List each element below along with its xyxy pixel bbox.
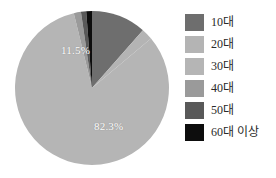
legend-item-label: 40대 [211, 82, 234, 94]
legend-item-label: 30대 [211, 60, 234, 72]
legend-item[interactable]: 20대 [185, 35, 273, 53]
slice-label-minor: 11.5% [61, 44, 90, 56]
legend-swatch-icon [185, 36, 204, 53]
legend-item[interactable]: 40대 [185, 79, 273, 97]
legend-item[interactable]: 30대 [185, 57, 273, 75]
legend-swatch-icon [185, 102, 204, 119]
legend-item[interactable]: 10대 [185, 13, 273, 31]
legend-swatch-icon [185, 14, 204, 31]
legend-item-label: 20대 [211, 38, 234, 50]
legend-swatch-icon [185, 58, 204, 75]
legend-item-label: 10대 [211, 16, 234, 28]
pie-chart-figure: 11.5% 82.3% 10대20대30대40대50대60대 이상 [0, 0, 276, 178]
pie-slices [15, 11, 169, 165]
chart-legend: 10대20대30대40대50대60대 이상 [185, 13, 273, 141]
legend-item-label: 60대 이상 [211, 126, 259, 138]
pie-svg [12, 8, 176, 170]
legend-item-label: 50대 [211, 104, 234, 116]
legend-swatch-icon [185, 124, 204, 141]
pie-plot-area: 11.5% 82.3% [12, 8, 176, 170]
legend-swatch-icon [185, 80, 204, 97]
legend-item[interactable]: 50대 [185, 101, 273, 119]
slice-label-major: 82.3% [94, 120, 123, 132]
legend-item[interactable]: 60대 이상 [185, 123, 273, 141]
